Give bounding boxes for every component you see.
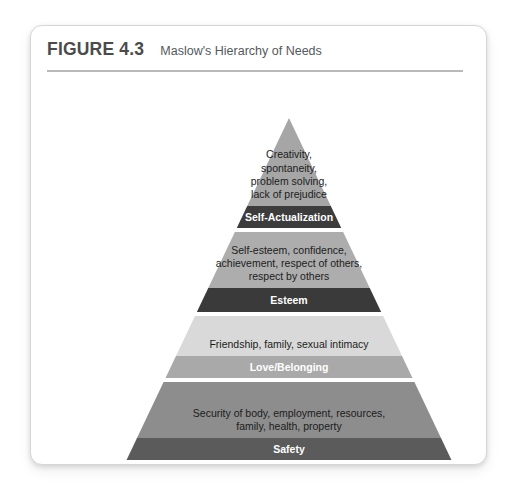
pyramid-svg: Creativity,spontaneity,problem solving,l… <box>31 56 486 461</box>
pyramid-tier: Security of body, employment, resources,… <box>127 382 452 460</box>
tier-description-line: Friendship, family, sexual intimacy <box>209 338 369 350</box>
tier-label: Safety <box>273 443 305 455</box>
figure-card: FIGURE 4.3 Maslow's Hierarchy of Needs C… <box>30 25 487 465</box>
pyramid-tier: Self-esteem, confidence,achievement, res… <box>197 232 381 312</box>
tier-description-line: Security of body, employment, resources, <box>193 407 385 419</box>
tier-description-line: family, health, property <box>236 420 342 432</box>
tier-label: Self-Actualization <box>245 211 333 223</box>
tier-description-line: lack of prejudice <box>251 188 327 200</box>
tier-description-line: problem solving, <box>251 175 327 187</box>
tier-description-line: respect by others <box>249 270 330 282</box>
tier-description-line: achievement, respect of others, <box>216 257 363 269</box>
pyramid-tier: Creativity,spontaneity,problem solving,l… <box>237 118 342 228</box>
tier-body-shape <box>176 316 402 356</box>
figure-screenshot: FIGURE 4.3 Maslow's Hierarchy of Needs C… <box>0 0 517 490</box>
tier-label: Esteem <box>270 294 307 306</box>
tier-description-line: spontaneity, <box>261 162 317 174</box>
tier-description-line: Self-esteem, confidence, <box>231 244 347 256</box>
tier-label: Love/Belonging <box>250 361 329 373</box>
pyramid-tier: Friendship, family, sexual intimacyLove/… <box>166 316 413 378</box>
tier-description-line: Creativity, <box>266 148 312 160</box>
maslow-pyramid-diagram: Creativity,spontaneity,problem solving,l… <box>31 56 486 461</box>
